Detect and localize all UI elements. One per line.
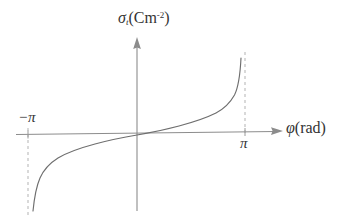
y-axis-label: σt(Cm-2): [118, 10, 170, 27]
figure-root: σt(Cm-2) φ(rad) −π π: [0, 0, 356, 219]
x-axis-label: φ(rad): [286, 120, 326, 136]
x-axis-unit: (rad): [295, 119, 326, 136]
x-tick-label-neg-pi: −π: [18, 110, 36, 125]
y-axis-arrow-icon: [133, 37, 141, 49]
x-axis-symbol: φ: [286, 119, 295, 136]
x-tick-label-pi: π: [240, 136, 248, 151]
x-axis-arrow-icon: [271, 127, 283, 135]
y-axis-unit-open: (Cm: [128, 9, 156, 26]
plot-canvas: [0, 0, 356, 219]
y-axis-symbol: σ: [118, 9, 126, 26]
y-axis-unit-close: ): [164, 9, 169, 26]
